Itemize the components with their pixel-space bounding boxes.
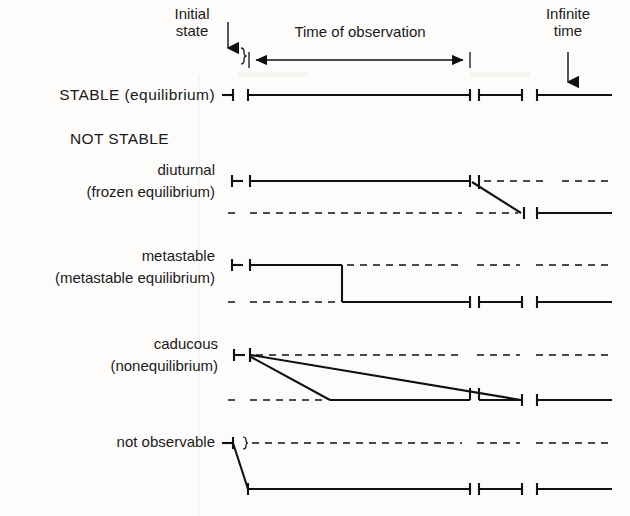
group-heading-not-stable: NOT STABLE [70, 130, 169, 147]
row-label-diuturnal: diuturnal [10, 162, 215, 179]
row-metastable-plot [228, 259, 612, 308]
time-of-observation-arrow [249, 52, 470, 68]
initial-state-label: Initial state [156, 6, 228, 40]
row-label-stable: STABLE (equilibrium) [10, 86, 215, 103]
row-label-not-observable: not observable [10, 434, 215, 451]
row-stable-plot [222, 89, 612, 101]
row-caducous-plot [228, 348, 612, 406]
stability-classification-figure: Initial state Time of observation Infini… [0, 0, 630, 516]
row-sublabel-metastable: (metastable equilibrium) [4, 270, 215, 287]
row-not-observable-plot [222, 437, 612, 495]
time-of-observation-label: Time of observation [250, 24, 470, 41]
row-sublabel-caducous: (nonequilibrium) [8, 358, 218, 375]
initial-state-brace [241, 48, 247, 64]
row-diuturnal-plot [228, 175, 612, 219]
row-sublabel-diuturnal: (frozen equilibrium) [10, 184, 215, 201]
row-label-caducous: caducous [10, 336, 218, 353]
row-label-metastable: metastable [10, 248, 215, 265]
infinite-time-label: Infinite time [532, 6, 604, 40]
